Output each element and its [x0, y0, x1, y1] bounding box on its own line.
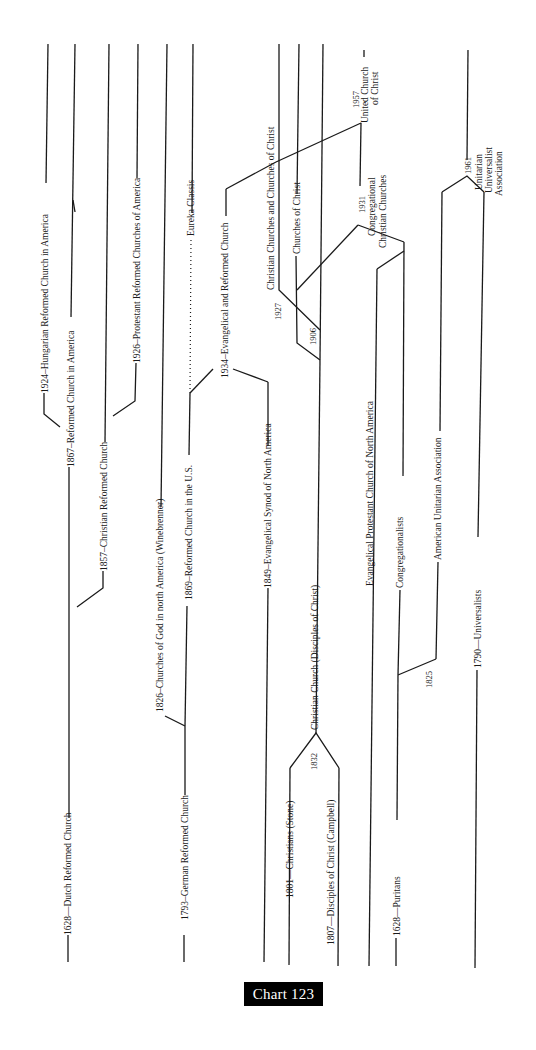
protestant-reformed-branch [113, 363, 136, 416]
rcus-merge-branch [190, 369, 213, 393]
label-winebrenner: 1826–Churches of God in north America (W… [155, 499, 166, 712]
eureka-dotted-line [190, 238, 191, 393]
label-year-1832: 1832 [309, 753, 319, 770]
chart-number-badge: Chart 123 [244, 982, 323, 1006]
label-congregationalists: Congregationalists [395, 516, 405, 588]
label-uua-line3: Association [494, 151, 504, 196]
label-ccc-line1: Congregational [367, 177, 377, 236]
label-year-1931: 1931 [357, 196, 367, 213]
protestant-reformed-line-top [137, 44, 138, 178]
label-cc-and-coc: Christian Churches and Churches of Chris… [266, 126, 276, 290]
label-ucc-line2: of Christ [370, 71, 380, 105]
label-evan-synod: 1849–Evangelical Synod of North America [263, 423, 273, 588]
label-year-1825: 1825 [424, 671, 434, 688]
label-dutch: 1628—Dutch Reformed Church [63, 812, 73, 935]
dutch-reformed-lineage [44, 44, 138, 962]
labels: 1628—Dutch Reformed Church 1867–Reformed… [40, 67, 504, 945]
label-universalists: 1790—Universalists [473, 590, 483, 668]
rca-tick [73, 200, 75, 212]
label-year-1906: 1906 [308, 328, 318, 345]
universalists-line-top [478, 192, 484, 537]
puritans-line-mid [397, 675, 398, 820]
label-puritans: 1628—Puritans [392, 876, 402, 936]
label-rca: 1867–Reformed Church in America [66, 330, 76, 467]
crc-line-top [105, 44, 109, 442]
winebrenner-line-top [161, 44, 167, 507]
label-uua-line1: Unitarian [474, 154, 484, 190]
label-rcus: 1869–Reformed Church in the U.S. [184, 465, 194, 600]
rca-line-top [71, 44, 75, 317]
label-campbell: 1807—Disciples of Christ (Campbell) [326, 800, 337, 945]
crc-branch [77, 571, 103, 607]
label-eureka: Eureka Classis [186, 179, 196, 236]
label-protestant-reformed: 1926–Protestant Reformed Churches of Ame… [132, 177, 142, 363]
aua-line-bottom [436, 562, 438, 659]
label-ccc-line2: Christian Churches [378, 175, 388, 248]
ucc-merge [276, 123, 361, 162]
churches-of-christ-line-top [297, 44, 299, 194]
evan-protestant-line [369, 269, 377, 966]
label-uua-line2: Universalist [484, 147, 494, 193]
label-year-1927: 1927 [273, 303, 283, 320]
disciples-to-ccc-branch [297, 225, 358, 290]
label-disciples: Christian Church (Disciples of Christ) [310, 585, 321, 730]
label-stone: 1801—Christians (Stone) [285, 801, 296, 898]
aua-line-top [440, 192, 442, 431]
rcus-line-top [189, 393, 190, 455]
label-year-1961: 1961 [463, 157, 473, 174]
disciples-line-top [320, 44, 323, 360]
label-german: 1793–German Reformed Church [180, 795, 190, 920]
congregationalists-line-bottom [398, 590, 400, 675]
evan-protestant-lineage [369, 251, 404, 966]
label-hungarian: 1924–Hungarian Reformed Church in Americ… [40, 213, 50, 393]
evan-synod-merge-branch [233, 369, 268, 382]
campbell-line [338, 768, 339, 966]
uua-line-top [467, 50, 468, 160]
denomination-genealogy-chart: 1628—Dutch Reformed Church 1867–Reformed… [0, 0, 536, 1050]
label-aua: American Unitarian Association [433, 437, 443, 560]
congregationalists-line-top [403, 242, 404, 476]
hungarian-line-top [46, 44, 48, 183]
hungarian-branch [44, 393, 60, 427]
label-crc: 1857–Christian Reformed Church [99, 441, 109, 571]
label-ucc-line1: United Church [360, 67, 370, 123]
label-e-and-r: 1934–Evangelical and Reformed Church [220, 222, 230, 378]
ccc-line [360, 123, 361, 186]
evan-synod-line-bottom [264, 588, 268, 962]
rcus-line-bottom [185, 606, 187, 726]
universalists-line-bottom [475, 670, 477, 968]
evan-protestant-merge [377, 251, 404, 269]
winebrenner-branch [165, 716, 185, 726]
label-churches-of-christ: Churches of Christ [292, 182, 302, 254]
label-evan-protestant: Evangelical Protestant Church of North A… [365, 400, 375, 586]
